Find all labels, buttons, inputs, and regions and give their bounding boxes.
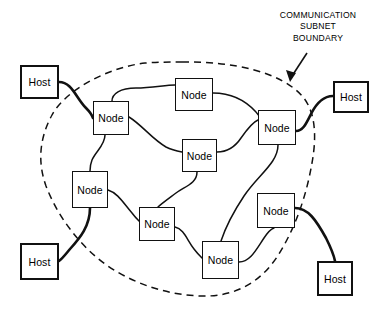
communication-subnet-boundary-label: COMMUNICATION SUBNET BOUNDARY	[258, 10, 378, 44]
node-e[interactable]: Node	[258, 110, 296, 145]
host-bottom-right[interactable]: Host	[317, 261, 353, 296]
node-w-label: Node	[77, 184, 103, 196]
host-top-left[interactable]: Host	[20, 65, 59, 99]
host-bottom-left-label: Host	[29, 256, 51, 268]
link-node-se-to-host-bottom-right	[295, 208, 335, 261]
link-node-w-to-node-sw	[108, 190, 139, 221]
node-n[interactable]: Node	[175, 78, 213, 111]
link-node-nw-to-node-center	[129, 117, 182, 152]
node-nw-label: Node	[98, 112, 124, 124]
link-node-nw-to-node-n	[112, 85, 175, 101]
host-top-right-label: Host	[340, 91, 362, 103]
link-node-nw-to-node-w	[90, 135, 105, 171]
node-w[interactable]: Node	[72, 171, 108, 208]
link-node-center-to-node-e	[217, 120, 258, 152]
node-s-label: Node	[208, 254, 234, 266]
node-sw[interactable]: Node	[139, 207, 175, 241]
node-sw-label: Node	[144, 218, 170, 230]
link-node-n-to-node-e	[213, 93, 262, 122]
node-e-label: Node	[264, 122, 290, 134]
node-n-label: Node	[181, 89, 207, 101]
node-se-label: Node	[263, 205, 289, 217]
host-top-left-label: Host	[29, 76, 51, 88]
link-node-s-to-node-se	[239, 228, 274, 262]
link-node-center-to-node-sw	[158, 172, 197, 207]
node-s[interactable]: Node	[202, 241, 239, 279]
network-diagram: COMMUNICATION SUBNET BOUNDARY Host Host …	[0, 0, 388, 315]
annotation-line-2: SUBNET	[258, 21, 378, 32]
host-top-right[interactable]: Host	[333, 81, 369, 113]
host-bottom-left[interactable]: Host	[20, 243, 59, 280]
node-nw[interactable]: Node	[93, 101, 129, 135]
node-center[interactable]: Node	[182, 139, 217, 172]
annotation-line-3: BOUNDARY	[258, 33, 378, 44]
node-se[interactable]: Node	[257, 193, 295, 228]
annotation-line-1: COMMUNICATION	[258, 10, 378, 21]
node-center-label: Node	[187, 150, 213, 162]
link-node-sw-to-node-s	[175, 227, 202, 258]
host-bottom-right-label: Host	[324, 273, 346, 285]
link-host-top-left-to-node-nw	[59, 82, 93, 118]
